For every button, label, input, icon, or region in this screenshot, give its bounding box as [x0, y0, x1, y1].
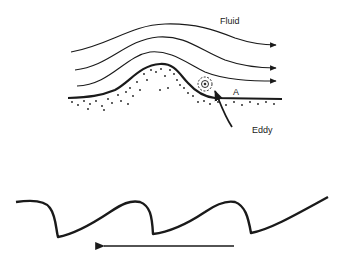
eddy-label: Eddy — [252, 125, 273, 135]
fluid-label: Fluid — [220, 16, 240, 26]
ripple-profile — [16, 197, 328, 237]
sediment-bed — [68, 64, 282, 111]
bed-surface — [68, 64, 282, 99]
eddy-spiral-icon — [198, 77, 212, 91]
diagram-canvas: Fluid A Eddy — [0, 0, 348, 275]
streamlines — [71, 24, 276, 86]
eddy-pointer-arrow — [215, 91, 232, 127]
point-a-label: A — [233, 87, 239, 97]
sediment-stipple — [71, 68, 275, 111]
